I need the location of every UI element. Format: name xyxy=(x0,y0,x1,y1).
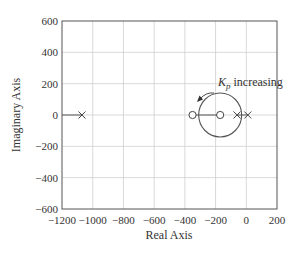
x-tick-label: −1200 xyxy=(48,214,77,226)
zero-circle-icon xyxy=(217,111,224,118)
x-axis-label: Real Axis xyxy=(146,228,193,242)
y-tick-label: 200 xyxy=(42,78,59,90)
x-tick-labels: −1200−1000−800−600−400−2000200 xyxy=(48,214,286,226)
y-tick-labels: 6004002000−200−400−600 xyxy=(35,15,58,215)
x-tick-label: −200 xyxy=(204,214,227,226)
y-tick-label: −200 xyxy=(35,140,58,152)
kp-annotation: Kp increasing xyxy=(197,75,283,102)
annotation-text: Kp increasing xyxy=(217,75,283,91)
y-tick-label: 400 xyxy=(42,46,59,58)
root-locus-chart: −1200−1000−800−600−400−2000200 600400200… xyxy=(0,0,300,253)
y-tick-label: 0 xyxy=(53,109,59,121)
y-tick-label: 600 xyxy=(42,15,59,27)
x-tick-label: −600 xyxy=(143,214,166,226)
y-tick-label: −600 xyxy=(35,203,58,215)
x-tick-label: −1000 xyxy=(79,214,108,226)
y-axis-label: Imaginary Axis xyxy=(9,78,23,153)
x-tick-label: −400 xyxy=(173,214,196,226)
x-tick-label: −800 xyxy=(112,214,135,226)
zero-circle-icon xyxy=(189,111,196,118)
y-tick-label: −400 xyxy=(35,172,58,184)
x-tick-label: 0 xyxy=(244,214,250,226)
x-tick-label: 200 xyxy=(269,214,286,226)
